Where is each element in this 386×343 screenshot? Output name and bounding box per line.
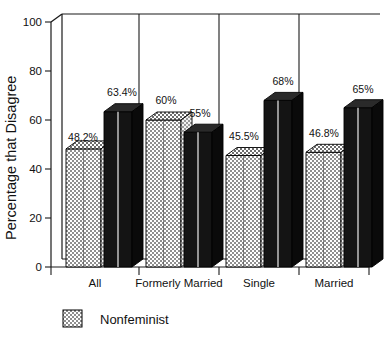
- value-label-all-feminist: 63.4%: [107, 86, 137, 98]
- x-tick-single: Single: [243, 277, 275, 289]
- value-label-married-feminist: 65%: [352, 83, 373, 95]
- legend-label-nonfeminist: Nonfeminist: [100, 312, 169, 327]
- y-tick-60: 60: [29, 114, 42, 126]
- value-label-single-nonfeminist: 45.5%: [229, 130, 259, 142]
- y-axis-title: Percentage that Disagree: [3, 76, 19, 240]
- x-tick-married: Married: [315, 277, 354, 289]
- legend-item-nonfeminist[interactable]: Nonfeminist: [63, 310, 169, 327]
- bar-group-married: 46.8% 65%: [306, 83, 383, 267]
- x-axis-ticks: [51, 267, 369, 275]
- y-axis-tick-labels: 100 80 60 40 20 0: [23, 16, 42, 273]
- bar-formerly-married-feminist[interactable]: [184, 124, 223, 267]
- chart-legend: Nonfeminist: [63, 310, 169, 327]
- y-axis-ticks: [45, 22, 51, 267]
- value-label-formerly-married-nonfeminist: 60%: [155, 94, 176, 106]
- value-label-all-nonfeminist: 48.2%: [68, 131, 98, 143]
- y-tick-0: 0: [36, 261, 42, 273]
- value-label-single-feminist: 68%: [272, 75, 293, 87]
- bar-single-feminist[interactable]: [264, 92, 303, 267]
- x-axis-tick-labels: All Formerly Married Single Married: [89, 277, 354, 289]
- legend-swatch-nonfeminist: [63, 310, 82, 327]
- value-label-married-nonfeminist: 46.8%: [309, 127, 339, 139]
- bar-married-feminist[interactable]: [344, 100, 383, 267]
- y-tick-40: 40: [29, 163, 42, 175]
- y-tick-100: 100: [23, 16, 42, 28]
- y-tick-20: 20: [29, 212, 42, 224]
- bar-chart-figure: 100 80 60 40 20 0 Percentage that Disagr…: [0, 0, 386, 343]
- value-label-formerly-married-feminist: 55%: [189, 107, 210, 119]
- bar-group-single: 45.5% 68%: [226, 75, 303, 267]
- bar-all-feminist[interactable]: [104, 104, 143, 267]
- bar-group-formerly-married: 60% 55%: [146, 94, 223, 267]
- x-tick-formerly-married: Formerly Married: [135, 277, 223, 289]
- y-tick-80: 80: [29, 65, 42, 77]
- bar-group-all: 48.2% 63.4%: [66, 86, 143, 267]
- x-tick-all: All: [89, 277, 102, 289]
- chart-canvas: 100 80 60 40 20 0 Percentage that Disagr…: [0, 0, 386, 343]
